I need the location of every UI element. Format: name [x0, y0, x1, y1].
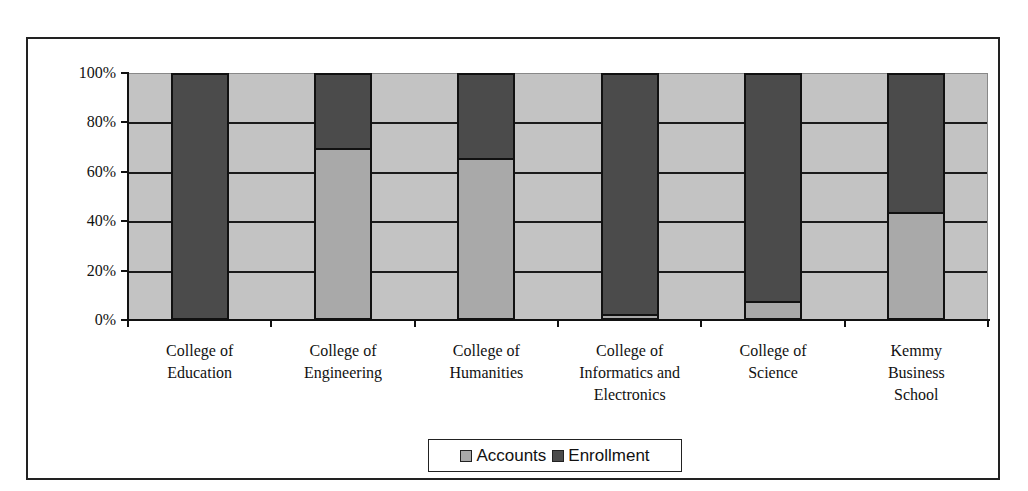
category-label: College of Informatics and Electronics [560, 340, 700, 406]
bar-stack [457, 73, 515, 320]
bar-segment-enrollment [746, 75, 800, 303]
x-tick [700, 320, 702, 327]
category-label: College of Science [703, 340, 843, 384]
category-label: College of Humanities [416, 340, 556, 384]
category-label: College of Education [130, 340, 270, 384]
bar-stack [171, 73, 229, 320]
y-tick-label: 80% [60, 113, 116, 131]
legend: Accounts Enrollment [428, 439, 682, 472]
legend-swatch-enrollment [552, 450, 564, 462]
y-axis [127, 72, 129, 322]
bar-segment-accounts [889, 212, 943, 318]
bar-segment-enrollment [316, 75, 370, 150]
gridline [128, 122, 987, 124]
y-tick-label: 40% [60, 212, 116, 230]
x-tick [987, 320, 989, 327]
y-tick-label: 60% [60, 163, 116, 181]
legend-label-enrollment: Enrollment [568, 446, 649, 466]
x-tick [844, 320, 846, 327]
legend-item-enrollment: Enrollment [552, 446, 649, 466]
bar-segment-enrollment [889, 75, 943, 214]
x-tick [557, 320, 559, 327]
y-tick-label: 100% [60, 64, 116, 82]
plot-area [128, 73, 988, 320]
bar-segment-enrollment [459, 75, 513, 160]
x-axis [122, 319, 990, 321]
gridline [128, 172, 987, 174]
gridline [128, 221, 987, 223]
bar-segment-accounts [459, 158, 513, 318]
legend-label-accounts: Accounts [476, 446, 546, 466]
bar-stack [744, 73, 802, 320]
y-tick-label: 0% [60, 311, 116, 329]
x-tick [414, 320, 416, 327]
bar-stack [601, 73, 659, 320]
bar-segment-accounts [316, 148, 370, 318]
gridline [128, 271, 987, 273]
bar-segment-enrollment [603, 75, 657, 316]
y-tick-label: 20% [60, 262, 116, 280]
legend-item-accounts: Accounts [460, 446, 546, 466]
category-label: College of Engineering [273, 340, 413, 384]
x-tick [270, 320, 272, 327]
bar-segment-accounts [603, 314, 657, 318]
bar-stack [887, 73, 945, 320]
category-label: Kemmy Business School [846, 340, 986, 406]
bar-segment-accounts [746, 301, 800, 318]
bar-stack [314, 73, 372, 320]
legend-swatch-accounts [460, 450, 472, 462]
bar-segment-enrollment [173, 75, 227, 318]
